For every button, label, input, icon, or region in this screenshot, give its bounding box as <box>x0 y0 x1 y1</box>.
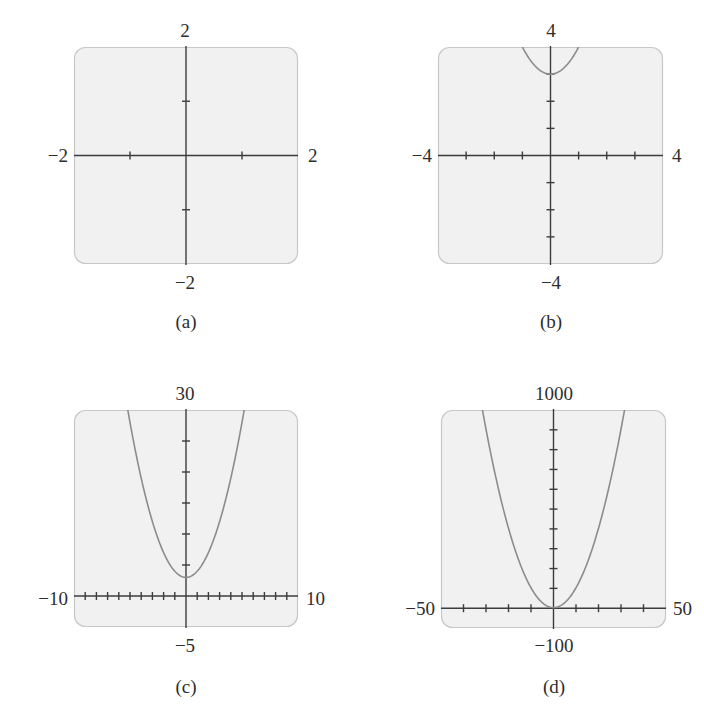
graph-panel-c <box>74 410 298 627</box>
panel-b-xmax-label: 4 <box>672 146 682 165</box>
panel-c-ymax-label: 30 <box>176 384 195 403</box>
panel-d-xmin-label: −50 <box>405 599 435 618</box>
panel-a-caption: (a) <box>175 312 196 331</box>
graph-panel-a <box>74 47 298 264</box>
panel-c-xmin-label: −10 <box>38 589 68 608</box>
panel-b-xmin-label: −4 <box>412 146 432 165</box>
panel-c-xmax-label: 10 <box>306 589 325 608</box>
panel-d-xmax-label: 50 <box>673 599 692 618</box>
panel-a-ymin-label: −2 <box>175 273 195 292</box>
graph-panel-d <box>441 410 666 628</box>
panel-c-caption: (c) <box>175 677 196 696</box>
panel-b-ymin-label: −4 <box>541 273 561 292</box>
graph-panel-b <box>438 47 663 264</box>
panel-d-caption: (d) <box>543 677 565 696</box>
panel-b-caption: (b) <box>540 312 562 331</box>
panel-d-ymin-label: −100 <box>534 636 573 655</box>
panel-d-ymax-label: 1000 <box>535 384 573 403</box>
panel-b-ymax-label: 4 <box>546 21 556 40</box>
panel-a-xmin-label: −2 <box>48 146 68 165</box>
panel-a-xmax-label: 2 <box>308 146 318 165</box>
panel-a-ymax-label: 2 <box>180 21 190 40</box>
panel-c-ymin-label: −5 <box>175 636 195 655</box>
